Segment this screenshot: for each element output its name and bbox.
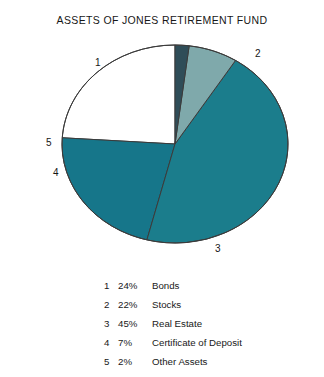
pie-slices-group (62, 45, 288, 243)
legend-index: 3 (104, 318, 118, 329)
legend-row: 5 2% Other Assets (0, 356, 324, 375)
legend-label: Other Assets (152, 356, 207, 367)
legend-percent: 7% (118, 337, 152, 348)
legend-percent: 2% (118, 356, 152, 367)
pie-slice-label-2: 2 (255, 49, 261, 59)
legend-percent: 22% (118, 299, 152, 310)
pie-slice-label-4: 4 (53, 168, 59, 178)
legend-label: Stocks (152, 299, 181, 310)
legend-row: 4 7% Certificate of Deposit (0, 337, 324, 356)
pie-slice-1 (62, 45, 175, 144)
pie-slice-label-5: 5 (46, 138, 52, 148)
chart-title: ASSETS OF JONES RETIREMENT FUND (0, 14, 324, 26)
legend-index: 1 (104, 280, 118, 291)
pie-chart-figure: ASSETS OF JONES RETIREMENT FUND 1 2 3 5 … (0, 0, 324, 377)
legend-row: 1 24% Bonds (0, 280, 324, 299)
pie-slice-label-1: 1 (95, 58, 101, 68)
legend-index: 2 (104, 299, 118, 310)
legend-label: Bonds (152, 280, 179, 291)
legend-index: 5 (104, 356, 118, 367)
pie-plot-area: 1 2 3 5 4 (50, 38, 300, 253)
legend-percent: 45% (118, 318, 152, 329)
legend-label: Certificate of Deposit (152, 337, 242, 348)
pie-svg (50, 38, 300, 253)
legend-label: Real Estate (152, 318, 202, 329)
legend-index: 4 (104, 337, 118, 348)
chart-legend: 1 24% Bonds 2 22% Stocks 3 45% Real Esta… (0, 280, 324, 375)
pie-slice-label-3: 3 (215, 244, 221, 254)
legend-row: 2 22% Stocks (0, 299, 324, 318)
legend-percent: 24% (118, 280, 152, 291)
legend-row: 3 45% Real Estate (0, 318, 324, 337)
